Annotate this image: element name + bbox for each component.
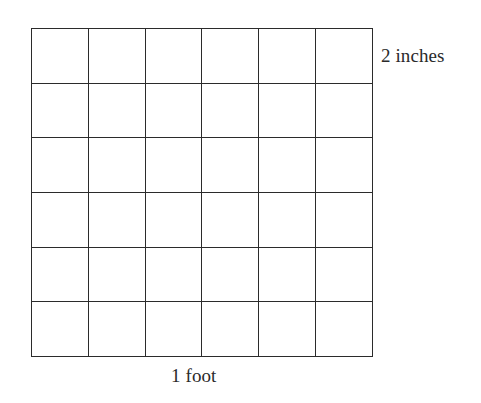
grid-cell [202, 29, 259, 84]
grid-cell [89, 84, 146, 139]
grid-cell [259, 248, 316, 303]
grid-cell [259, 84, 316, 139]
grid-cell [202, 138, 259, 193]
grid-cell [146, 84, 203, 139]
grid-cell [202, 84, 259, 139]
grid-cell [259, 302, 316, 357]
grid-cell [316, 193, 373, 248]
grid-cell [202, 302, 259, 357]
grid-cell [89, 29, 146, 84]
grid-cell [259, 29, 316, 84]
grid-cell [316, 302, 373, 357]
grid-cell [32, 248, 89, 303]
height-dimension-label: 2 inches [381, 46, 445, 65]
grid-cell [146, 302, 203, 357]
grid-container [31, 28, 373, 357]
grid-cell [32, 29, 89, 84]
grid-cell [316, 138, 373, 193]
grid-cell [316, 29, 373, 84]
grid-cell [202, 193, 259, 248]
grid-cell [89, 302, 146, 357]
grid-cell [146, 29, 203, 84]
grid-cell [32, 302, 89, 357]
grid-cell [89, 138, 146, 193]
grid-cell [32, 84, 89, 139]
grid-cell [146, 248, 203, 303]
grid-cell [202, 248, 259, 303]
grid-cell [316, 84, 373, 139]
grid-cell [89, 193, 146, 248]
width-dimension-label: 1 foot [171, 366, 216, 385]
grid-square-diagram: 2 inches 1 foot [0, 0, 481, 403]
grid-cell [32, 193, 89, 248]
grid-cell [316, 248, 373, 303]
grid-cell [146, 193, 203, 248]
grid-cell [146, 138, 203, 193]
grid-cell [259, 193, 316, 248]
grid-cell [32, 138, 89, 193]
grid-cell [89, 248, 146, 303]
grid-cell [259, 138, 316, 193]
